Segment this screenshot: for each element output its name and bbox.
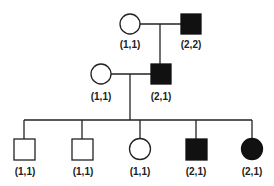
male-unaffected-symbol (14, 139, 35, 160)
genotype-label: (2,1) (151, 91, 172, 102)
genotype-label: (1,1) (91, 91, 112, 102)
pedigree-chart: (1,1) (2,2) (1,1) (2,1) (1,1) (1,1) (1,1… (0, 0, 274, 186)
female-unaffected-symbol (91, 64, 111, 84)
female-unaffected-symbol (120, 14, 140, 34)
genotype-label: (1,1) (130, 166, 151, 177)
genotype-label: (2,2) (181, 39, 202, 50)
genotype-label: (1,1) (73, 166, 94, 177)
female-unaffected-symbol (130, 139, 151, 160)
male-affected-symbol (181, 14, 201, 34)
genotype-label: (2,1) (186, 166, 207, 177)
male-affected-symbol (151, 64, 171, 84)
male-unaffected-symbol (72, 139, 93, 160)
female-affected-symbol (242, 139, 263, 160)
genotype-label: (2,1) (242, 166, 263, 177)
male-affected-symbol (186, 139, 207, 160)
genotype-label: (1,1) (15, 166, 36, 177)
genotype-label: (1,1) (120, 39, 141, 50)
